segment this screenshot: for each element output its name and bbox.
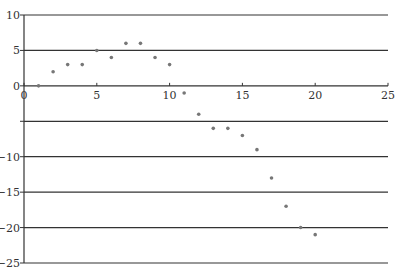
data-point bbox=[211, 127, 215, 131]
y-tick-label: −15 bbox=[0, 186, 20, 199]
data-point bbox=[66, 63, 70, 67]
data-points bbox=[37, 42, 317, 237]
y-tick-label: 0 bbox=[13, 80, 20, 93]
data-point bbox=[153, 56, 157, 60]
y-tick-label: −25 bbox=[0, 257, 20, 270]
data-point bbox=[197, 112, 201, 116]
x-tick-label: 25 bbox=[381, 89, 395, 102]
data-point bbox=[182, 91, 186, 95]
data-point bbox=[270, 176, 274, 180]
data-point bbox=[255, 148, 259, 152]
data-point bbox=[95, 49, 99, 53]
data-point bbox=[168, 63, 172, 67]
data-point bbox=[284, 205, 288, 209]
data-point bbox=[110, 56, 114, 60]
data-point bbox=[80, 63, 84, 67]
data-point bbox=[51, 70, 55, 74]
x-tick-label: 15 bbox=[235, 89, 249, 102]
y-axis-ticks: 1050−10−15−20−25 bbox=[0, 9, 24, 270]
data-point bbox=[226, 127, 230, 131]
x-tick-label: 5 bbox=[93, 89, 100, 102]
data-point bbox=[139, 42, 143, 46]
y-tick-label: 5 bbox=[13, 44, 20, 57]
x-tick-label: 10 bbox=[163, 89, 177, 102]
data-point bbox=[241, 134, 245, 138]
scatter-chart: 0510152025 1050−10−15−20−25 bbox=[0, 0, 396, 270]
y-tick-label: 10 bbox=[6, 9, 20, 22]
data-point bbox=[299, 226, 303, 230]
data-point bbox=[124, 42, 128, 46]
y-tick-label: −10 bbox=[0, 151, 20, 164]
data-point bbox=[37, 84, 41, 88]
y-tick-label: −20 bbox=[0, 222, 20, 235]
x-tick-label: 0 bbox=[21, 89, 28, 102]
data-point bbox=[313, 233, 317, 237]
gridlines bbox=[24, 15, 388, 263]
x-tick-label: 20 bbox=[308, 89, 322, 102]
